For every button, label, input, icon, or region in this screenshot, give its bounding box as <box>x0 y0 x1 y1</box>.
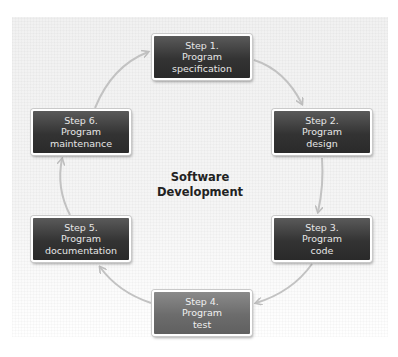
step-5-label: Step 5. <box>64 222 98 234</box>
step-5-line2: Program <box>61 233 101 245</box>
step-3-line3: code <box>311 245 334 257</box>
step-1-box: Step 1. Program specification <box>152 34 252 80</box>
diagram-center-title: Software Development <box>140 170 260 200</box>
step-4-box: Step 4. Program test <box>152 290 252 336</box>
step-2-line3: design <box>306 138 338 150</box>
step-4-label: Step 4. <box>185 296 219 308</box>
step-6-label: Step 6. <box>64 115 98 127</box>
arrow-step5-to-step6 <box>60 159 70 215</box>
step-4-line2: Program <box>182 307 222 319</box>
step-3-label: Step 3. <box>305 222 339 234</box>
step-6-line3: maintenance <box>50 138 112 150</box>
step-2-line2: Program <box>302 126 342 138</box>
step-2-label: Step 2. <box>305 115 339 127</box>
step-6-box: Step 6. Program maintenance <box>31 109 131 155</box>
title-line-1: Software <box>140 170 260 185</box>
arrow-step1-to-step2 <box>254 60 302 104</box>
step-1-label: Step 1. <box>185 40 219 52</box>
step-4-line3: test <box>193 319 211 331</box>
arrow-step6-to-step1 <box>95 52 148 108</box>
step-6-line2: Program <box>61 126 101 138</box>
step-2-box: Step 2. Program design <box>272 109 372 155</box>
step-5-line3: documentation <box>45 245 117 257</box>
step-3-box: Step 3. Program code <box>272 216 372 262</box>
step-1-line3: specification <box>172 63 232 75</box>
step-1-line2: Program <box>182 51 222 63</box>
arrow-step4-to-step5 <box>100 267 151 303</box>
title-line-2: Development <box>140 185 260 200</box>
step-5-box: Step 5. Program documentation <box>31 216 131 262</box>
step-3-line2: Program <box>302 233 342 245</box>
arrow-step2-to-step3 <box>318 158 323 212</box>
arrow-step3-to-step4 <box>256 264 312 303</box>
